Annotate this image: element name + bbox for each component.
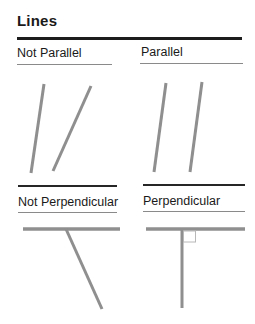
parallel-figure [140,80,243,180]
oblique-line-1 [31,84,44,173]
parallel-line-1 [154,83,166,172]
perpendicular-figure [140,222,250,317]
oblique-line [66,229,102,309]
title-rule [17,37,242,40]
not-perpendicular-underline [18,212,117,213]
right-angle-marker [184,231,196,242]
not-perpendicular-figure [17,222,127,317]
perpendicular-underline [143,211,245,212]
right-section-divider [143,184,245,186]
parallel-line-2 [190,82,202,172]
not-parallel-figure [17,80,117,180]
lines-diagram-page: Lines Not Parallel Parallel Not Perpendi… [0,0,255,324]
not-parallel-underline [17,64,112,65]
not-perpendicular-label: Not Perpendicular [18,195,118,209]
not-parallel-label: Not Parallel [17,46,82,60]
left-section-divider [18,185,117,187]
perpendicular-label: Perpendicular [143,194,220,208]
oblique-line-2 [53,86,91,171]
page-title: Lines [17,12,57,29]
parallel-underline [140,63,243,64]
parallel-label: Parallel [141,45,183,59]
